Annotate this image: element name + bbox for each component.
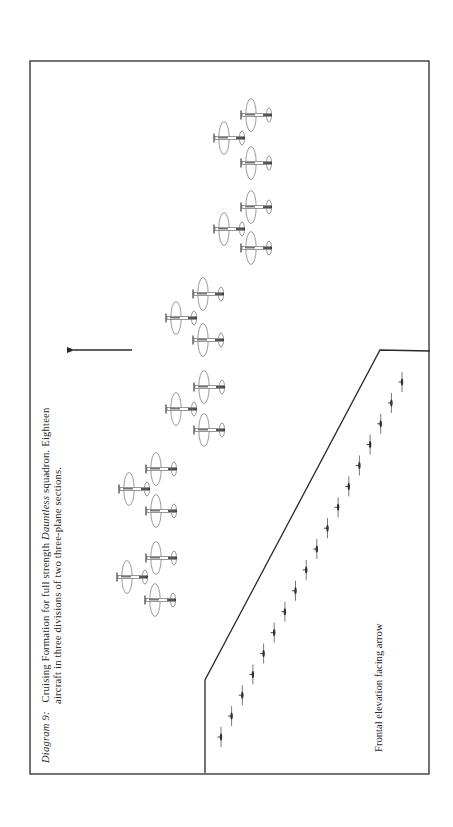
aircraft-top-view-icon <box>193 278 224 311</box>
aircraft-top-view-icon <box>194 371 225 404</box>
aircraft-frontal-view-icon <box>345 476 350 496</box>
aircraft-top-view-icon <box>214 122 245 155</box>
aircraft-frontal-view-icon <box>292 581 297 601</box>
aircraft-frontal-view-icon <box>281 602 286 622</box>
aircraft-top-view-icon <box>166 302 197 335</box>
aircraft-frontal-view-icon <box>356 456 361 476</box>
aircraft-frontal-view-icon <box>218 727 223 747</box>
aircraft-frontal-view-icon <box>367 435 372 455</box>
elevation-label-group: Frontal elevation facing arrow <box>373 623 384 752</box>
aircraft-frontal-view-icon <box>260 644 265 664</box>
frontal-elevation-label: Frontal elevation facing arrow <box>373 623 384 752</box>
aircraft-top-view-icon <box>146 542 177 575</box>
figure-caption: Diagram 9: Cruising Formation for full s… <box>40 407 51 764</box>
aircraft-top-view-icon <box>241 99 272 132</box>
aircraft-frontal-view-icon <box>239 685 244 705</box>
aircraft-top-view-icon <box>241 232 272 265</box>
cruising-formation <box>117 99 272 617</box>
diagram-canvas: Diagram 9: Cruising Formation for full s… <box>0 0 453 827</box>
caption-aircraft-name: Dauntless <box>40 496 51 541</box>
figure-number: Diagram 9: <box>40 711 51 764</box>
frontal-elevation-panel-border <box>205 350 430 773</box>
aircraft-top-view-icon <box>119 473 150 506</box>
aircraft-frontal-view-icon <box>324 518 329 538</box>
aircraft-frontal-view-icon <box>377 414 382 434</box>
outer-frame <box>30 61 429 774</box>
aircraft-top-view-icon <box>166 393 197 426</box>
aircraft-frontal-view-icon <box>335 497 340 517</box>
aircraft-frontal-view-icon <box>303 560 308 580</box>
document-page: Diagram 9: Cruising Formation for full s… <box>0 0 453 827</box>
caption-part-1: Cruising Formation for full strength <box>40 540 51 702</box>
aircraft-top-view-icon <box>214 213 245 246</box>
caption-line-1: Diagram 9: Cruising Formation for full s… <box>40 407 51 764</box>
aircraft-frontal-view-icon <box>249 664 254 684</box>
aircraft-frontal-view-icon <box>228 706 233 726</box>
aircraft-top-view-icon <box>194 414 225 447</box>
aircraft-top-view-icon <box>145 584 176 617</box>
aircraft-frontal-view-icon <box>271 623 276 643</box>
aircraft-frontal-view-icon <box>388 393 393 413</box>
aircraft-top-view-icon <box>117 561 148 594</box>
aircraft-top-view-icon <box>241 147 272 180</box>
caption-part-3: squadron. Eighteen <box>40 407 51 493</box>
aircraft-top-view-icon <box>146 453 177 486</box>
aircraft-top-view-icon <box>241 191 272 224</box>
caption-line-2: aircraft in three divisions of two three… <box>52 467 63 704</box>
figure-caption-continued: aircraft in three divisions of two three… <box>52 467 63 704</box>
aircraft-top-view-icon <box>146 495 177 528</box>
aircraft-frontal-view-icon <box>399 372 404 392</box>
aircraft-top-view-icon <box>193 324 224 357</box>
aircraft-frontal-view-icon <box>313 539 318 559</box>
